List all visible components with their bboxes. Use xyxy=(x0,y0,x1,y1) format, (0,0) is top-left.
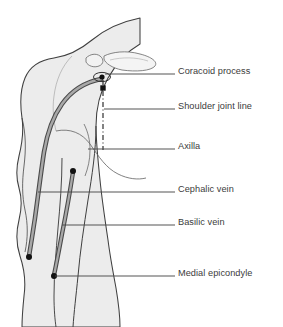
anatomy-diagram-page: Coracoid process Shoulder joint line Axi… xyxy=(0,0,283,327)
cephalic-upper-dot-icon xyxy=(70,168,76,174)
coracoid-dot-icon xyxy=(99,74,104,79)
shoulder-joint-square-icon xyxy=(100,85,105,90)
label-shoulder-joint-line: Shoulder joint line xyxy=(178,101,252,111)
label-axilla: Axilla xyxy=(178,141,200,151)
label-basilic-vein: Basilic vein xyxy=(178,217,225,227)
label-coracoid-process: Coracoid process xyxy=(178,66,250,76)
clavicle-bone xyxy=(86,54,103,67)
label-cephalic-vein: Cephalic vein xyxy=(178,184,234,194)
label-medial-epicondyle: Medial epicondyle xyxy=(178,268,252,278)
cephalic-lower-dot-icon xyxy=(26,254,32,260)
